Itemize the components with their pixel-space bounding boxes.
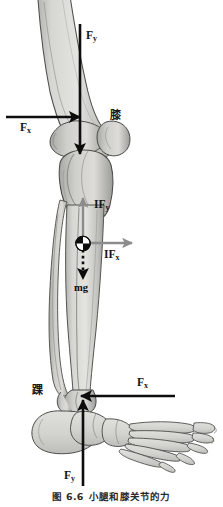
label-com-ifx: IFx (104, 249, 120, 262)
label-com-ify: IFy (94, 199, 110, 212)
label-ankle: 踝 (32, 385, 43, 396)
center-of-mass-symbol (76, 236, 90, 250)
leg-skeleton-artwork (32, 0, 216, 472)
figure-caption-text: 小腿和膝关节的力 (89, 491, 171, 502)
patella-bone (97, 121, 130, 156)
label-ankle-fx: Fx (137, 377, 148, 390)
label-com-mg: mg (74, 283, 88, 294)
label-knee: 膝 (110, 110, 121, 121)
figure-root: Fy Fx 膝 IFy IFx mg 踝 Fx Fy 图 6.6 小腿和膝关节的… (0, 0, 223, 507)
figure-caption: 图 6.6 小腿和膝关节的力 (0, 489, 223, 503)
label-ankle-fy: Fy (64, 470, 75, 483)
figure-caption-number: 图 6.6 (52, 491, 83, 502)
label-knee-fy: Fy (86, 30, 97, 43)
foot-skeleton (32, 411, 216, 473)
label-knee-fx: Fx (20, 122, 31, 135)
tibia-bone (66, 205, 104, 392)
